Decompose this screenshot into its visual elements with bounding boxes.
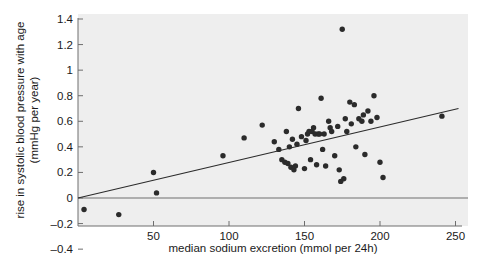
data-point [343,116,348,121]
data-point [326,119,331,124]
x-tick-label: 50 [147,230,160,242]
data-point [151,170,156,175]
data-point [241,135,246,140]
data-point [284,129,289,134]
data-point [81,207,86,212]
data-point [260,122,265,127]
data-point [293,163,298,168]
data-point [374,115,379,120]
y-axis-tick-labels: –0.4–0.200.20.40.60.811.21.4 [51,13,74,255]
y-tick-label: 1 [67,64,73,76]
data-point [362,152,367,157]
data-point [332,153,337,158]
data-point [344,129,349,134]
y-tick-label: 0 [67,192,73,204]
data-point [303,138,308,143]
data-point [337,167,342,172]
data-point [340,27,345,32]
chart-figure: –0.4–0.200.20.40.60.811.21.4 50100150200… [0,0,490,280]
x-tick-label: 100 [219,230,238,242]
data-point [341,176,346,181]
y-tick-label: 0.4 [57,141,74,153]
data-point [296,106,301,111]
data-point [154,190,159,195]
y-axis-title: rise in systolic blood pressure with age… [14,22,40,219]
y-tick-label: –0.2 [51,218,73,230]
data-point [314,162,319,167]
data-point [321,131,326,136]
data-point [377,160,382,165]
data-point [353,144,358,149]
data-point [272,139,277,144]
data-point [320,147,325,152]
y-tick-label: 1.2 [57,39,73,51]
y-tick-label: 0.6 [57,115,73,127]
data-point [365,108,370,113]
data-point [318,96,323,101]
data-point [359,119,364,124]
y-axis-title-line-1: rise in systolic blood pressure with age [14,22,26,219]
x-tick-label: 250 [446,230,465,242]
data-point [371,93,376,98]
data-point [380,175,385,180]
data-point [361,112,366,117]
scatter-plot: –0.4–0.200.20.40.60.811.21.4 50100150200… [0,0,490,280]
x-tick-label: 200 [370,230,389,242]
data-point [352,102,357,107]
data-point [220,153,225,158]
x-axis-tick-labels: 50100150200250 [147,230,465,242]
y-tick-label: –0.4 [51,243,74,255]
data-point [323,163,328,168]
x-tick-label: 150 [295,230,314,242]
data-point [299,134,304,139]
data-point [329,129,334,134]
y-axis-title-line-2: (mmHg per year) [28,76,40,163]
data-point [347,99,352,104]
x-axis-title: median sodium excretion (mmol per 24h) [168,242,377,254]
data-point [116,212,121,217]
y-tick-label: 0.8 [57,90,73,102]
y-tick-label: 1.4 [57,13,74,25]
y-tick-label: 0.2 [57,166,73,178]
data-point [311,125,316,130]
data-point [368,119,373,124]
data-point [439,113,444,118]
data-point [335,124,340,129]
data-point [308,157,313,162]
data-point [349,121,354,126]
data-point [290,136,295,141]
data-point [302,166,307,171]
